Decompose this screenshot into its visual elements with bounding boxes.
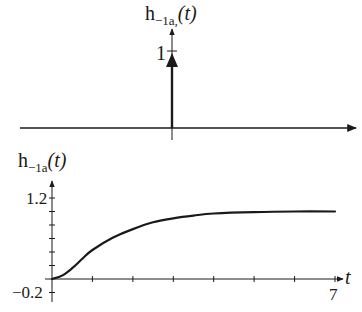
step-response-title: h−1a(t) [18, 149, 67, 175]
x-axis-label: t [345, 266, 351, 288]
y-tick-label-min: −0.2 [12, 283, 43, 302]
step-response-curve [52, 211, 335, 279]
figure: h−1a,(t) 1 h−1a(t) [0, 0, 362, 312]
step-response-chart: h−1a(t) 1.2 −0.2 7 t [12, 149, 351, 304]
impulse-chart: h−1a,(t) 1 [20, 2, 356, 140]
impulse-arrowhead-icon [166, 53, 178, 67]
impulse-y-tick-label: 1 [156, 42, 166, 64]
impulse-title: h−1a,(t) [145, 2, 197, 28]
x-tick-label-max: 7 [329, 285, 338, 304]
y-tick-label-max: 1.2 [26, 189, 47, 208]
